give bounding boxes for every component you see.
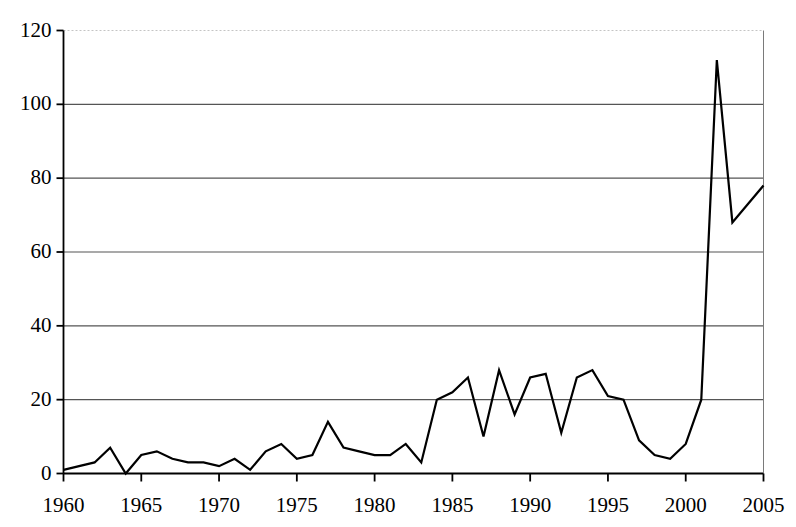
x-tick-label-2000: 2000 [646, 495, 726, 516]
x-tick-label-1960: 1960 [24, 495, 104, 516]
data-series-line [64, 60, 764, 473]
y-tick-label-40: 40 [31, 315, 52, 336]
x-tick-label-1970: 1970 [179, 495, 259, 516]
x-tick-label-1995: 1995 [568, 495, 648, 516]
y-tick-label-0: 0 [41, 463, 52, 484]
y-tick-label-100: 100 [20, 93, 52, 114]
x-tick-label-2005: 2005 [724, 495, 796, 516]
x-tick-label-1985: 1985 [412, 495, 492, 516]
gridlines [64, 31, 764, 474]
y-tick-marks [57, 31, 64, 474]
line-chart: 020406080100120 196019651970197519801985… [0, 0, 796, 527]
y-tick-label-80: 80 [31, 167, 52, 188]
x-tick-marks [64, 474, 764, 482]
x-tick-label-1975: 1975 [257, 495, 337, 516]
x-tick-label-1990: 1990 [490, 495, 570, 516]
y-tick-label-120: 120 [20, 20, 52, 41]
chart-canvas [0, 0, 796, 527]
x-tick-label-1980: 1980 [335, 495, 415, 516]
y-tick-label-60: 60 [31, 241, 52, 262]
y-tick-label-20: 20 [31, 389, 52, 410]
x-tick-label-1965: 1965 [101, 495, 181, 516]
